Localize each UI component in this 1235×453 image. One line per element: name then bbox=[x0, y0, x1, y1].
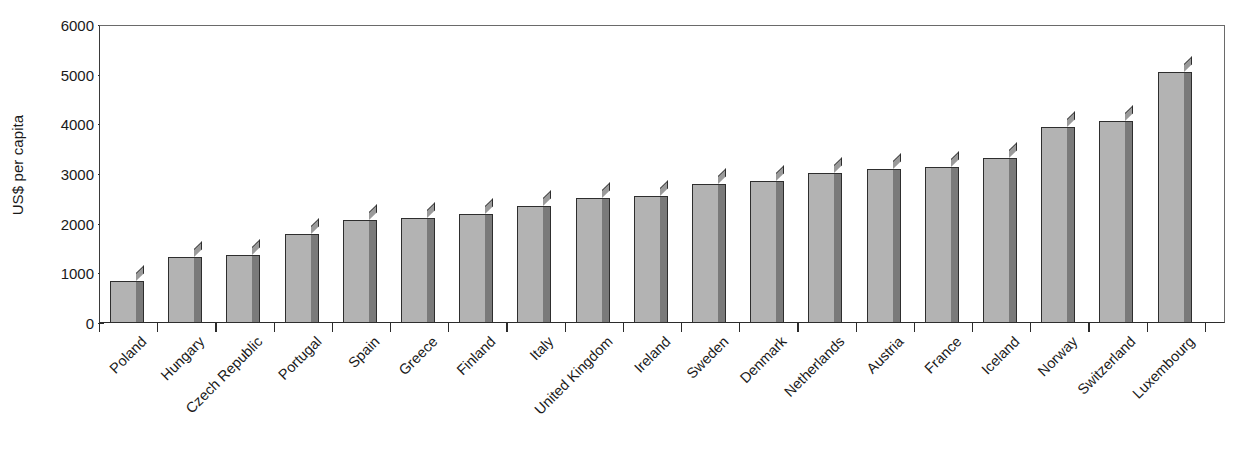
bar-front-face bbox=[808, 173, 834, 323]
x-axis-tick-mark bbox=[914, 323, 915, 332]
bar-side-face bbox=[1067, 127, 1075, 323]
y-axis-tick-label: 2000 bbox=[36, 216, 94, 231]
bar bbox=[401, 210, 435, 323]
y-axis-tick-label: 6000 bbox=[36, 18, 94, 33]
x-axis-tick-mark bbox=[623, 323, 624, 332]
bar bbox=[925, 159, 959, 323]
bar-front-face bbox=[343, 220, 369, 323]
x-axis-tick-mark bbox=[332, 323, 333, 332]
bar-top-face bbox=[136, 265, 144, 281]
x-axis-tick-mark bbox=[1205, 323, 1206, 332]
bar-top-face bbox=[602, 183, 610, 199]
bar-front-face bbox=[168, 257, 194, 323]
bar bbox=[459, 206, 493, 323]
bar-side-face bbox=[660, 196, 668, 323]
bar-side-face bbox=[427, 218, 435, 323]
bar-front-face bbox=[226, 255, 252, 323]
bar-side-face bbox=[369, 220, 377, 323]
x-axis-tick-mark bbox=[157, 323, 158, 332]
bar-side-face bbox=[485, 214, 493, 323]
bar-side-face bbox=[834, 173, 842, 323]
bar bbox=[343, 212, 377, 323]
x-axis-tick-label: Poland bbox=[107, 334, 149, 376]
x-axis-tick-label: Portugal bbox=[275, 334, 323, 382]
x-axis-tick-label: Ireland bbox=[631, 334, 673, 376]
bar-side-face bbox=[951, 167, 959, 323]
x-axis-tick-mark bbox=[274, 323, 275, 332]
bar bbox=[634, 188, 668, 323]
x-axis-tick-mark bbox=[565, 323, 566, 332]
bar-side-face bbox=[136, 281, 144, 323]
x-axis-tick-marks bbox=[99, 323, 1225, 332]
bar-top-face bbox=[252, 240, 260, 256]
x-axis-tick-mark bbox=[390, 323, 391, 332]
x-axis-tick-label: Iceland bbox=[979, 334, 1022, 377]
bar-top-face bbox=[194, 242, 202, 258]
x-axis-tick-label: Netherlands bbox=[782, 334, 848, 400]
bar-top-face bbox=[311, 218, 319, 234]
x-axis-tick-label: Italy bbox=[528, 334, 557, 363]
x-axis-tick-mark bbox=[972, 323, 973, 332]
x-axis-tick-mark bbox=[1147, 323, 1148, 332]
x-axis-tick-label: Luxembourg bbox=[1130, 334, 1197, 401]
bar bbox=[1041, 119, 1075, 323]
y-axis-title: US$ per capita bbox=[0, 0, 34, 330]
bar-top-face bbox=[485, 198, 493, 214]
x-axis-tick-mark bbox=[797, 323, 798, 332]
bar-top-face bbox=[543, 190, 551, 206]
bar bbox=[576, 190, 610, 323]
bar bbox=[226, 247, 260, 323]
x-axis-tick-label: Norway bbox=[1035, 334, 1080, 379]
y-axis-tick-labels: 0100020003000400050006000 bbox=[36, 0, 94, 340]
x-axis-tick-label: France bbox=[922, 334, 964, 376]
bar-top-face bbox=[660, 180, 668, 196]
bar-front-face bbox=[1158, 72, 1184, 323]
bar-top-face bbox=[951, 151, 959, 167]
bar-side-face bbox=[194, 257, 202, 323]
x-axis-tick-mark bbox=[1030, 323, 1031, 332]
bar bbox=[1158, 64, 1192, 323]
bar-front-face bbox=[692, 184, 718, 323]
bar-front-face bbox=[517, 206, 543, 323]
bar bbox=[750, 173, 784, 323]
y-axis-tick-label: 5000 bbox=[36, 67, 94, 82]
x-axis-tick-label: Spain bbox=[346, 334, 382, 370]
bar-top-face bbox=[834, 157, 842, 173]
bar-front-face bbox=[634, 196, 660, 323]
x-axis-tick-label: Austria bbox=[864, 334, 906, 376]
bar-top-face bbox=[427, 202, 435, 218]
bar bbox=[168, 249, 202, 323]
y-axis-tick-label: 1000 bbox=[36, 266, 94, 281]
x-axis-tick-mark bbox=[1088, 323, 1089, 332]
bar-side-face bbox=[602, 198, 610, 323]
bar-front-face bbox=[867, 169, 893, 323]
bar-side-face bbox=[311, 234, 319, 323]
bar-front-face bbox=[285, 234, 311, 323]
bar bbox=[983, 150, 1017, 323]
bar-top-face bbox=[369, 204, 377, 220]
bar bbox=[867, 161, 901, 323]
bar-side-face bbox=[776, 181, 784, 323]
x-axis-tick-mark bbox=[448, 323, 449, 332]
bars-layer bbox=[99, 25, 1225, 323]
bar-front-face bbox=[1099, 121, 1125, 323]
bar-side-face bbox=[543, 206, 551, 323]
x-axis-tick-label: Switzerland bbox=[1075, 334, 1138, 397]
bar-side-face bbox=[1009, 158, 1017, 323]
x-axis-tick-label: Hungary bbox=[158, 334, 207, 383]
bar-front-face bbox=[576, 198, 602, 323]
bar-front-face bbox=[401, 218, 427, 323]
bar-front-face bbox=[459, 214, 485, 323]
bar-front-face bbox=[925, 167, 951, 323]
x-axis-tick-label: Denmark bbox=[738, 334, 790, 386]
bar-top-face bbox=[1009, 142, 1017, 158]
x-axis-tick-label: Greece bbox=[396, 334, 440, 378]
bar-top-face bbox=[776, 165, 784, 181]
bar-front-face bbox=[1041, 127, 1067, 323]
x-axis-tick-mark bbox=[99, 323, 100, 332]
bar bbox=[1099, 113, 1133, 323]
bar-top-face bbox=[718, 169, 726, 185]
bar-front-face bbox=[983, 158, 1009, 323]
y-axis-tick-label: 4000 bbox=[36, 117, 94, 132]
bar bbox=[517, 198, 551, 323]
